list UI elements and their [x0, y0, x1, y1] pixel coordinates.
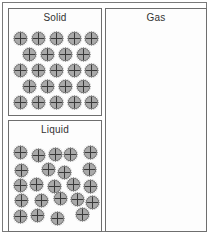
liquid-particle: [13, 145, 28, 160]
liquid-particle: [75, 207, 90, 222]
solid-particle: [40, 79, 55, 94]
solid-particle: [67, 63, 82, 78]
liquid-particle: [50, 211, 65, 226]
liquid-particle: [66, 177, 81, 192]
solid-particle: [22, 79, 37, 94]
panel-gas: Gas: [105, 8, 207, 232]
liquid-particle: [48, 147, 63, 162]
liquid-particle: [13, 209, 28, 224]
solid-particle: [58, 47, 73, 62]
solid-particle: [76, 79, 91, 94]
solid-particle: [13, 31, 28, 46]
solid-particle: [84, 95, 99, 110]
states-of-matter-figure: Solid Liquid Gas: [0, 0, 209, 234]
solid-particle: [67, 95, 82, 110]
liquid-particle: [30, 208, 45, 223]
solid-particle: [84, 31, 99, 46]
panel-solid: Solid: [8, 8, 102, 116]
solid-particle: [67, 31, 82, 46]
liquid-particle: [13, 178, 28, 193]
liquid-particle: [31, 148, 46, 163]
solid-particle: [22, 47, 37, 62]
panel-gas-title: Gas: [106, 12, 206, 23]
solid-particle: [31, 95, 46, 110]
solid-particle: [40, 47, 55, 62]
solid-particle: [49, 63, 64, 78]
solid-particle: [13, 95, 28, 110]
panel-liquid: Liquid: [8, 120, 102, 232]
liquid-particle: [34, 193, 49, 208]
liquid-particle: [41, 162, 56, 177]
figure-outer-frame: Solid Liquid Gas: [2, 2, 207, 232]
solid-particle: [76, 47, 91, 62]
liquid-particle: [53, 191, 68, 206]
liquid-particle: [29, 177, 44, 192]
solid-particle: [49, 31, 64, 46]
panel-solid-title: Solid: [9, 12, 101, 23]
solid-particle: [31, 63, 46, 78]
solid-particle: [84, 63, 99, 78]
liquid-particle: [82, 162, 97, 177]
solid-particle: [13, 63, 28, 78]
liquid-particle: [63, 147, 78, 162]
panel-liquid-title: Liquid: [9, 124, 101, 135]
solid-particle: [31, 31, 46, 46]
liquid-particle: [83, 179, 98, 194]
liquid-particle: [83, 145, 98, 160]
solid-particle: [49, 95, 64, 110]
liquid-particle: [70, 192, 85, 207]
solid-particle: [58, 79, 73, 94]
liquid-particle: [14, 193, 29, 208]
liquid-particle: [14, 163, 29, 178]
